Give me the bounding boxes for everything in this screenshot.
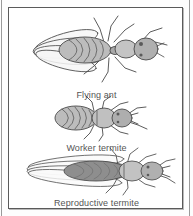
worker-termite-head: [112, 109, 138, 127]
caption-reproductive-termite: Reproductive termite: [9, 198, 184, 209]
reproductive-termite-illustration: [14, 145, 179, 197]
page-edge-right: [189, 0, 190, 216]
figure-root: Flying ant: [0, 0, 193, 216]
specimen-reproductive-termite: Reproductive termite: [9, 145, 184, 209]
page-edge-left: [1, 0, 2, 216]
reproductive-termite-abdomen: [64, 161, 128, 181]
illustration-frame: Flying ant: [8, 7, 183, 209]
flying-ant-illustration: [22, 12, 172, 90]
flying-ant-head: [134, 38, 164, 60]
worker-termite-abdomen: [55, 106, 97, 130]
flying-ant-abdomen: [59, 37, 111, 63]
worker-termite-illustration: [42, 94, 152, 142]
specimen-flying-ant: Flying ant: [9, 12, 184, 101]
